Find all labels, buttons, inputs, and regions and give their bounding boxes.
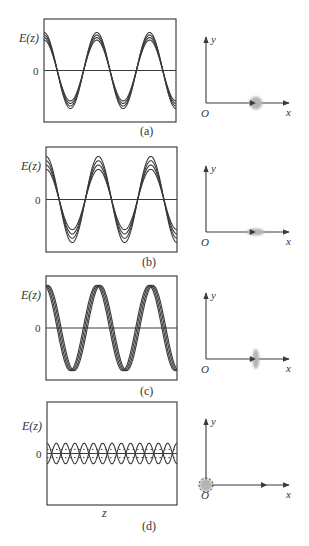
x-axis-mid-arrow — [261, 482, 267, 488]
panel-d: E(z)0(d)zyxO — [21, 402, 291, 533]
panel-caption: (d) — [142, 519, 156, 533]
y-axis-label: y — [210, 415, 216, 427]
xlabel-z: z — [101, 506, 107, 520]
ylabel-E-of-z: E(z) — [20, 288, 41, 302]
x-axis-label: x — [285, 235, 291, 247]
zero-tick-label: 0 — [35, 194, 41, 206]
coordinate-axes: yxO — [201, 162, 291, 248]
panel-a: E(z)0(a)yxO — [18, 19, 291, 138]
origin-label: O — [201, 363, 209, 375]
panel-b: E(z)0(b)yxO — [20, 147, 291, 269]
origin-label: O — [201, 236, 209, 248]
ylabel-E-of-z: E(z) — [20, 159, 41, 173]
zero-tick-label: 0 — [36, 448, 42, 460]
figure: E(z)0(a)yxOE(z)0(b)yxOE(z)0(c)yxOE(z)0(d… — [0, 0, 309, 546]
x-axis-label: x — [285, 106, 291, 118]
x-axis-label: x — [285, 362, 291, 374]
x-axis-label: x — [285, 488, 291, 500]
origin-label: O — [201, 107, 209, 119]
y-axis-label: y — [210, 289, 216, 301]
beam-spot — [200, 479, 213, 492]
panel-c: E(z)0(c)yxO — [20, 276, 291, 398]
zero-tick-label: 0 — [33, 65, 39, 77]
panel-caption: (b) — [142, 255, 156, 269]
y-axis-label: y — [210, 162, 216, 174]
ylabel-E-of-z: E(z) — [21, 419, 42, 433]
ylabel-E-of-z: E(z) — [18, 31, 39, 45]
coordinate-axes: yxO — [201, 289, 291, 375]
y-axis-label: y — [210, 33, 216, 45]
coordinate-axes: yxO — [199, 415, 291, 501]
panel-caption: (c) — [140, 384, 153, 398]
coordinate-axes: yxO — [201, 33, 291, 119]
zero-tick-label: 0 — [35, 322, 41, 334]
panel-caption: (a) — [140, 124, 153, 138]
